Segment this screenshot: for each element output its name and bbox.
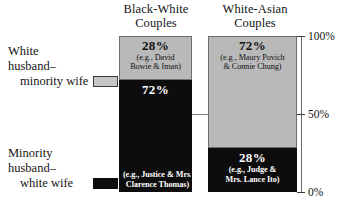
legend-label-bottom-line1: Minority husband–	[8, 146, 56, 175]
segment-right-minority-husband-white-wife: 28% (e.g., Judge & Mrs. Lance Ito)	[208, 148, 297, 192]
segment-left-top-percent: 28%	[142, 39, 169, 53]
bar-black-white-couples: 28% (e.g., David Bowie & Iman) 72% (e.g.…	[119, 36, 192, 192]
segment-right-top-example-line2: & Connie Chung)	[220, 62, 284, 71]
segment-right-bottom-percent: 28%	[239, 151, 266, 165]
segment-right-white-husband-minority-wife: 72% (e.g., Maury Povich & Connie Chung)	[208, 36, 297, 148]
segment-left-white-husband-minority-wife: 28% (e.g., David Bowie & Iman)	[119, 36, 192, 80]
column-header-white-asian-line2: Couples	[207, 17, 303, 31]
segment-left-bottom-percent: 72%	[142, 83, 169, 97]
segment-right-top-example: (e.g., Maury Povich & Connie Chung)	[218, 53, 286, 72]
segment-right-bottom-example-line1: (e.g., Judge &	[225, 165, 279, 174]
stacked-bar-chart: Black-White Couples White-Asian Couples …	[0, 0, 348, 206]
column-header-white-asian: White-Asian Couples	[207, 3, 303, 30]
bar-white-asian-couples: 72% (e.g., Maury Povich & Connie Chung) …	[208, 36, 297, 192]
segment-left-top-example: (e.g., David Bowie & Iman)	[128, 53, 183, 72]
legend-item-minority-husband-white-wife: Minority husband– white wife	[8, 146, 118, 191]
segment-right-bottom-example: (e.g., Judge & Mrs. Lance Ito)	[223, 165, 281, 184]
y-axis-tick-100	[297, 36, 305, 37]
segment-left-top-example-line1: (e.g., David	[130, 53, 181, 62]
column-header-black-white-line1: Black-White	[113, 3, 199, 17]
segment-right-top-example-line1: (e.g., Maury Povich	[220, 53, 284, 62]
segment-right-top-percent: 72%	[239, 39, 266, 53]
segment-left-bottom-example: (e.g., Justice & Mrs. Clarence Thomas)	[120, 170, 192, 189]
segment-left-bottom-example-line2: Clarence Thomas)	[122, 180, 192, 189]
legend-label-minority-husband-white-wife: Minority husband– white wife	[8, 146, 89, 191]
y-axis-label-50: 50%	[308, 108, 329, 120]
y-axis-tick-0	[297, 192, 305, 193]
segment-left-top-example-line2: Bowie & Iman)	[130, 62, 181, 71]
column-header-black-white-line2: Couples	[113, 17, 199, 31]
legend-item-white-husband-minority-wife: White husband– minority wife	[8, 44, 118, 89]
segment-left-minority-husband-white-wife: 72% (e.g., Justice & Mrs. Clarence Thoma…	[119, 80, 192, 192]
column-header-black-white: Black-White Couples	[113, 3, 199, 30]
legend-label-bottom-line2: white wife	[8, 176, 89, 191]
column-header-white-asian-line1: White-Asian	[207, 3, 303, 17]
y-axis-label-100: 100%	[308, 30, 335, 42]
legend-label-white-husband-minority-wife: White husband– minority wife	[8, 44, 89, 89]
legend-swatch-gray-icon	[93, 76, 118, 87]
y-axis-tick-50	[297, 114, 305, 115]
legend-label-top-line2: minority wife	[8, 74, 89, 89]
gridline-50-percent	[192, 114, 209, 115]
segment-left-bottom-example-line1: (e.g., Justice & Mrs.	[122, 170, 192, 179]
segment-right-bottom-example-line2: Mrs. Lance Ito)	[225, 175, 279, 184]
legend-label-top-line1: White husband–	[8, 44, 56, 73]
legend-swatch-black-icon	[93, 178, 118, 189]
y-axis-label-0: 0%	[308, 186, 323, 198]
